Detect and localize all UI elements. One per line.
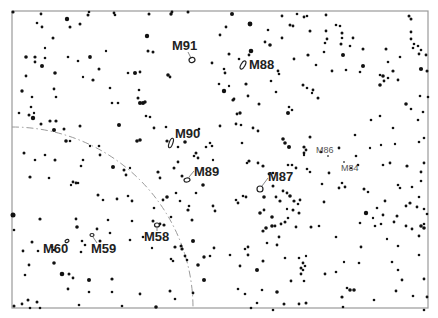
star [67,56,70,59]
star [288,194,292,198]
star [77,182,80,185]
star [41,26,44,29]
star [310,226,313,229]
star [22,250,25,253]
star [153,207,156,210]
star [250,307,253,310]
star [40,123,43,126]
star [262,260,265,263]
star [423,162,426,165]
star [248,54,251,57]
star [284,221,287,224]
star [369,147,371,149]
star [169,290,172,293]
star [292,199,295,202]
star [211,145,214,148]
star [64,139,68,143]
star [270,224,274,228]
star [287,164,290,167]
star [20,89,23,92]
star [426,70,429,73]
star [114,14,117,17]
star [225,26,228,29]
star [88,291,91,294]
star [152,220,155,223]
star [420,180,423,183]
star [97,194,100,197]
star [248,22,253,27]
star [55,96,58,99]
star [298,212,301,215]
star [192,292,195,295]
star [80,165,83,168]
star [376,207,379,210]
star [359,71,362,74]
star [205,146,208,149]
star [247,254,250,257]
star [283,303,286,306]
star [235,199,238,202]
star [171,11,174,14]
star [419,95,422,98]
star [165,139,168,142]
star [277,70,280,73]
star [28,114,31,117]
star [138,89,141,92]
star [363,188,366,191]
star [156,170,159,173]
star [237,288,240,291]
star [305,149,308,152]
star [413,43,416,46]
star [31,116,35,120]
star [417,119,420,122]
star [417,45,420,48]
star [399,187,402,190]
star [304,265,307,268]
chart-frame [12,11,428,308]
star [179,200,182,203]
star [238,58,241,61]
star [340,43,343,46]
star [306,87,309,90]
star [79,23,82,26]
star [224,72,227,75]
star [309,30,312,33]
star [21,303,24,306]
star [305,302,308,305]
star [153,127,156,130]
star [143,100,146,103]
star [276,244,279,247]
star [195,192,198,195]
star [281,15,284,18]
star [24,274,27,277]
star [29,307,32,310]
star [96,228,99,231]
star [306,168,309,171]
galaxy-dot-icon [327,155,329,157]
star [283,141,287,145]
star [228,85,230,87]
star [272,309,275,312]
star [177,161,180,164]
star [397,79,400,82]
star [177,146,180,149]
star [303,280,306,283]
star [303,16,306,19]
star [426,296,429,299]
star [275,196,278,199]
star [338,187,341,190]
star [72,181,75,184]
star [420,171,423,174]
star [379,115,382,118]
star [188,205,191,208]
star [318,225,321,228]
star [335,236,338,239]
star [427,96,430,99]
star [89,145,91,147]
star [70,184,72,186]
star [77,60,80,63]
star [111,102,114,105]
star [11,10,14,13]
star [245,196,248,199]
star [408,201,411,204]
